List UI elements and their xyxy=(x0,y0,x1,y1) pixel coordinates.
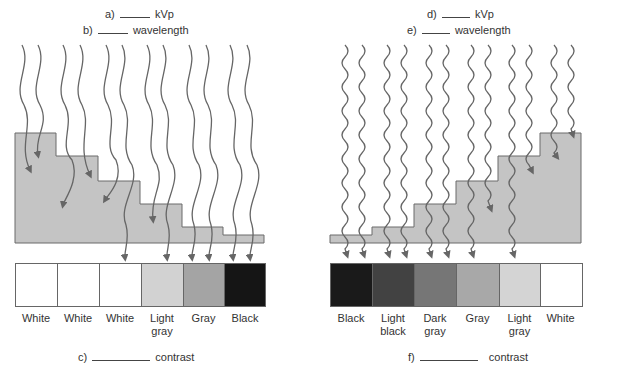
swatch-label: White xyxy=(540,312,581,338)
swatch-4 xyxy=(142,264,184,306)
left-density-swatches xyxy=(15,263,266,307)
step-wedge-diagram xyxy=(0,0,630,270)
swatch-5 xyxy=(184,264,225,306)
right-step-wedge xyxy=(330,133,581,243)
question-c-prefix: c) xyxy=(78,351,87,363)
answer-blank-f[interactable] xyxy=(420,351,478,361)
swatch-3 xyxy=(100,264,142,306)
swatch-label: Gray xyxy=(183,312,224,338)
swatch-label: Black xyxy=(224,312,266,338)
left-swatch-labels: White White White Light gray Gray Black xyxy=(15,312,266,338)
swatch-1 xyxy=(16,264,58,306)
question-f-suffix: contrast xyxy=(489,351,528,363)
question-f: f) contrast xyxy=(408,351,528,363)
swatch-1 xyxy=(331,264,373,306)
swatch-label: Dark gray xyxy=(414,312,456,338)
swatch-label: Gray xyxy=(456,312,499,338)
right-density-swatches xyxy=(330,263,583,307)
swatch-3 xyxy=(415,264,457,306)
swatch-label: Light gray xyxy=(141,312,183,338)
swatch-6 xyxy=(541,264,582,306)
swatch-label: White xyxy=(57,312,99,338)
swatch-label: White xyxy=(15,312,57,338)
right-swatch-labels: Black Light black Dark gray Gray Light g… xyxy=(330,312,581,338)
swatch-label: Black xyxy=(330,312,372,338)
swatch-2 xyxy=(58,264,100,306)
swatch-label: Light gray xyxy=(499,312,540,338)
question-c-suffix: contrast xyxy=(155,351,194,363)
swatch-6 xyxy=(225,264,265,306)
swatch-2 xyxy=(373,264,415,306)
swatch-4 xyxy=(457,264,500,306)
left-step-wedge xyxy=(15,133,264,243)
swatch-label: White xyxy=(99,312,141,338)
swatch-label: Light black xyxy=(372,312,414,338)
swatch-5 xyxy=(500,264,541,306)
question-f-prefix: f) xyxy=(408,351,415,363)
question-c: c) contrast xyxy=(78,351,194,363)
answer-blank-c[interactable] xyxy=(92,351,150,361)
